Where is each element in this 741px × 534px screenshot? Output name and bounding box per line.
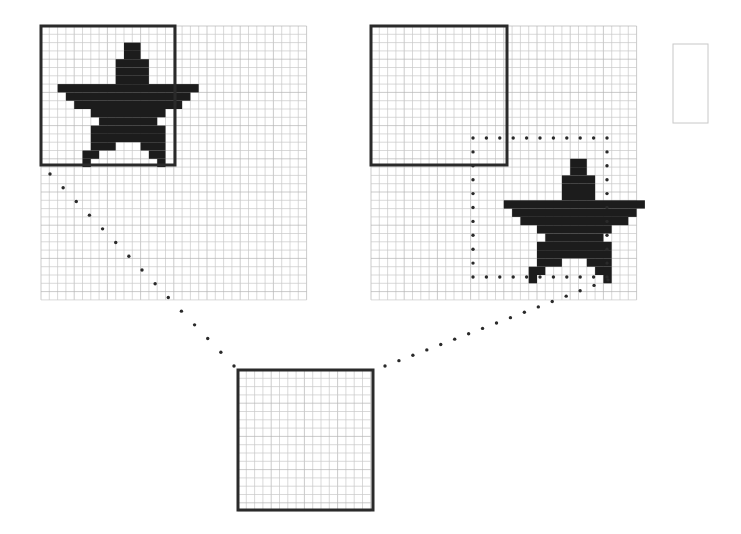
right-grid bbox=[371, 26, 645, 300]
zoomed-window-grid bbox=[238, 370, 371, 511]
faint-rectangle bbox=[673, 44, 708, 123]
diagram-canvas bbox=[0, 0, 741, 534]
leader-left bbox=[48, 172, 235, 367]
zoomed-window-border bbox=[238, 370, 373, 510]
pixel-grid-panels bbox=[41, 26, 645, 300]
star-icon bbox=[58, 43, 199, 168]
star-icon bbox=[504, 159, 645, 283]
zoomed-window bbox=[238, 370, 373, 511]
selection-window bbox=[371, 26, 507, 165]
left-grid bbox=[41, 26, 307, 300]
